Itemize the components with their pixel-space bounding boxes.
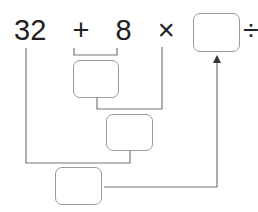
step1-answer-box[interactable] xyxy=(73,60,119,98)
step2-answer-box[interactable] xyxy=(106,114,153,151)
result-answer-box[interactable] xyxy=(193,13,240,52)
step3-answer-box[interactable] xyxy=(55,167,102,205)
arrow-up-icon xyxy=(213,55,221,63)
bracket-8x6 xyxy=(74,48,117,55)
